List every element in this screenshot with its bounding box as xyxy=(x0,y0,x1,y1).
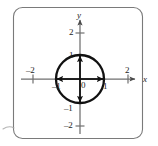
x-tick-label-minus1: –1 xyxy=(52,82,61,91)
figure-canvas xyxy=(0,0,158,146)
y-tick-label-minus1: –1 xyxy=(64,104,73,113)
x-axis-label: x xyxy=(143,75,147,84)
x-tick-label-minus2: –2 xyxy=(26,66,35,75)
x-tick-label-plus2: 2 xyxy=(125,66,129,75)
y-tick-label-plus1: 1 xyxy=(69,51,73,60)
origin-label: 0 xyxy=(81,81,86,90)
y-tick-label-minus2: –2 xyxy=(64,121,73,130)
y-axis-label: y xyxy=(77,11,81,20)
math-figure-panel: x y 0 –2 –1 1 2 2 1 –1 –2 xyxy=(0,0,158,146)
scan-artifact-mark xyxy=(3,127,14,129)
y-tick-label-plus2: 2 xyxy=(69,28,73,37)
x-tick-label-plus1: 1 xyxy=(103,82,107,91)
